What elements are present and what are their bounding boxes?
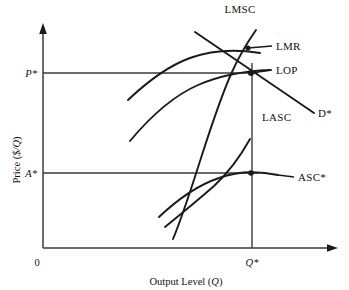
curve-lmsc: [173, 30, 256, 239]
guide-line-group: [43, 63, 258, 248]
label-d-star: D*: [318, 107, 332, 119]
label-lasc: LASC: [262, 111, 291, 123]
x-tick-q-star: Q*: [246, 257, 260, 268]
y-tick-p-star: P*: [24, 68, 37, 79]
origin-label: 0: [34, 257, 39, 268]
axis-group: [39, 23, 338, 252]
label-lmsc: LMSC: [224, 3, 255, 15]
economics-diagram: LMSC LMR LOP D* LASC ASC* P* A* Q* 0 Pri…: [0, 0, 349, 290]
y-tick-a-star: A*: [24, 168, 37, 179]
curve-asc-star: [159, 172, 278, 217]
leader-line-asc-star: [278, 175, 294, 177]
label-asc-star: ASC*: [298, 171, 326, 183]
label-lmr: LMR: [276, 40, 301, 52]
leader-line-lmr: [248, 46, 272, 48]
y-axis-title: Price ($/Q): [11, 136, 23, 183]
y-axis-arrowhead: [39, 23, 47, 34]
label-lop: LOP: [276, 64, 298, 76]
plot-canvas: LMSC LMR LOP D* LASC ASC* P* A* Q* 0 Pri…: [0, 0, 349, 290]
x-axis-arrowhead: [327, 244, 338, 252]
x-axis-title: Output Level (Q): [150, 276, 223, 288]
curve-lmr: [128, 51, 260, 100]
intersection-point-asc-lasc: [248, 170, 254, 176]
